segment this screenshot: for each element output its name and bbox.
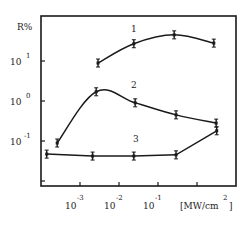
x-axis-unit: [MW/cm 2 ] <box>180 194 233 211</box>
data-curves <box>45 31 219 160</box>
curve-label-2: 2 <box>131 80 137 90</box>
svg-text:-1: -1 <box>155 194 162 202</box>
x-tick-label: 10 <box>65 201 77 211</box>
svg-text:1: 1 <box>26 52 30 60</box>
data-point-error-bar <box>214 119 218 127</box>
svg-text:-3: -3 <box>77 194 84 202</box>
data-point-error-bar <box>172 31 176 39</box>
curve-3 <box>47 131 217 156</box>
x-tick-label: 10 <box>104 201 116 211</box>
data-point-error-bar <box>132 152 136 160</box>
data-point-error-bar <box>96 59 100 67</box>
data-point-error-bar <box>174 111 178 119</box>
curve-label-1: 1 <box>131 24 137 34</box>
data-point-error-bar <box>45 150 49 158</box>
svg-text:0: 0 <box>26 92 30 100</box>
svg-text:[MW/cm: [MW/cm <box>180 201 219 211</box>
svg-text:2: 2 <box>223 194 227 202</box>
curve-label-3: 3 <box>133 134 139 144</box>
y-axis-label: R% <box>17 22 33 32</box>
data-point-error-bar <box>174 151 178 159</box>
svg-text:]: ] <box>229 201 233 211</box>
data-point-error-bar <box>94 88 98 96</box>
data-point-error-bar <box>212 39 216 47</box>
curve-1 <box>98 35 214 63</box>
data-point-error-bar <box>91 152 95 160</box>
svg-text:-1: -1 <box>24 132 31 140</box>
y-tick-label: 10 <box>10 97 22 107</box>
y-tick-label: 10 <box>10 137 22 147</box>
svg-text:-2: -2 <box>116 194 123 202</box>
data-point-error-bar <box>215 127 219 135</box>
data-point-error-bar <box>133 99 137 107</box>
reflectance-chart: 10-310-210-1 10110010-1 R% 1 2 3 [MW/cm … <box>0 0 249 226</box>
y-tick-label: 10 <box>10 57 22 67</box>
x-tick-label: 10 <box>143 201 155 211</box>
y-axis-ticks: 10110010-1 <box>10 52 45 181</box>
data-point-error-bar <box>132 40 136 48</box>
